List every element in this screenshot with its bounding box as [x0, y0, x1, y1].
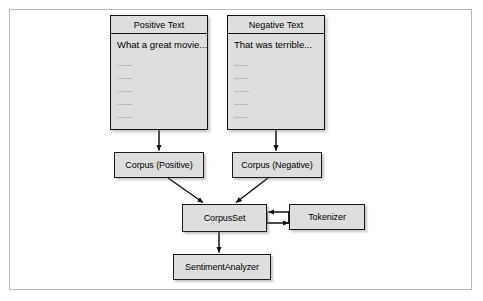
edge-corpus-negative-to-corpus-set	[236, 178, 268, 203]
document-ellipsis-line: ......	[234, 57, 318, 70]
document-ellipsis-line: ......	[117, 70, 201, 83]
document-panel-negative-text: Negative Text That was terrible... .....…	[227, 15, 325, 130]
node-corpus-positive: Corpus (Positive)	[114, 152, 204, 178]
document-ellipsis-line: ......	[234, 83, 318, 96]
document-ellipsis-line: ......	[234, 109, 318, 122]
diagram-canvas: Positive Text What a great movie... ....…	[0, 0, 483, 301]
document-ellipsis-line: ......	[117, 109, 201, 122]
document-body-negative-text: That was terrible... ...... ...... .....…	[228, 34, 324, 129]
document-first-line-positive-text: What a great movie...	[117, 39, 201, 50]
document-ellipsis-line: ......	[117, 57, 201, 70]
document-ellipsis-line: ......	[117, 83, 201, 96]
document-body-positive-text: What a great movie... ...... ...... ....…	[111, 34, 207, 129]
document-ellipsis-line: ......	[234, 70, 318, 83]
document-title-negative-text: Negative Text	[228, 16, 324, 34]
node-corpus-set: CorpusSet	[182, 204, 267, 232]
document-ellipsis-line: ......	[234, 96, 318, 109]
node-corpus-negative: Corpus (Negative)	[232, 152, 322, 178]
document-title-positive-text: Positive Text	[111, 16, 207, 34]
node-sentiment-analyzer: SentimentAnalyzer	[173, 254, 271, 280]
document-first-line-negative-text: That was terrible...	[234, 39, 318, 50]
diagram-layer: Positive Text What a great movie... ....…	[0, 0, 483, 301]
document-ellipsis-line: ......	[117, 96, 201, 109]
document-panel-positive-text: Positive Text What a great movie... ....…	[110, 15, 208, 130]
node-tokenizer: Tokenizer	[289, 204, 365, 230]
edge-corpus-positive-to-corpus-set	[168, 178, 203, 203]
